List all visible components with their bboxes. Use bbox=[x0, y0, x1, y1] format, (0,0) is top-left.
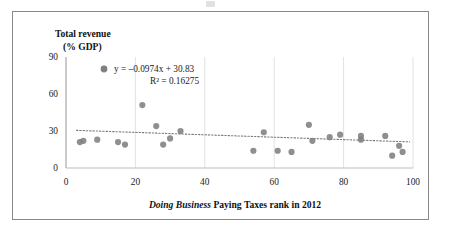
data-point bbox=[177, 128, 183, 134]
data-point bbox=[382, 133, 388, 139]
data-point bbox=[153, 123, 159, 129]
data-point bbox=[115, 139, 121, 145]
data-point bbox=[396, 143, 402, 149]
y-tick-90: 90 bbox=[49, 52, 59, 62]
data-point bbox=[167, 135, 173, 141]
data-point bbox=[275, 148, 281, 154]
x-tick-40: 40 bbox=[200, 177, 210, 187]
data-point bbox=[358, 137, 364, 143]
figure-root: 0306090 020406080100 Total revenue (% GD… bbox=[0, 0, 449, 235]
x-tick-60: 60 bbox=[270, 177, 280, 187]
y-axis-tick-labels: 0306090 bbox=[49, 52, 59, 173]
data-point bbox=[337, 132, 343, 138]
data-point bbox=[288, 149, 294, 155]
data-point bbox=[327, 134, 333, 140]
data-point bbox=[399, 149, 405, 155]
data-point bbox=[309, 138, 315, 144]
data-point bbox=[389, 153, 395, 159]
x-tick-20: 20 bbox=[131, 177, 141, 187]
y-tick-60: 60 bbox=[49, 89, 59, 99]
chart-frame: 0306090 020406080100 Total revenue (% GD… bbox=[12, 11, 429, 220]
x-tick-100: 100 bbox=[406, 177, 420, 187]
y-tick-30: 30 bbox=[49, 126, 59, 136]
x-axis-tick-labels: 020406080100 bbox=[64, 177, 421, 187]
data-point bbox=[261, 129, 267, 135]
x-tick-80: 80 bbox=[339, 177, 349, 187]
x-tick-0: 0 bbox=[64, 177, 69, 187]
data-point bbox=[80, 138, 86, 144]
data-points bbox=[77, 102, 406, 159]
data-point bbox=[250, 148, 256, 154]
y-tick-0: 0 bbox=[53, 163, 58, 173]
svg-text:(% GDP): (% GDP) bbox=[63, 41, 102, 53]
x-axis-title: Doing Business Paying Taxes rank in 2012 bbox=[148, 199, 321, 210]
y-axis-title: Total revenue (% GDP) bbox=[55, 28, 111, 53]
data-point bbox=[122, 141, 128, 147]
data-point bbox=[160, 141, 166, 147]
svg-text:R² = 0.16275: R² = 0.16275 bbox=[150, 76, 199, 86]
data-point bbox=[139, 102, 145, 108]
data-point bbox=[94, 137, 100, 143]
svg-text:Doing Business Paying Taxes ra: Doing Business Paying Taxes rank in 2012 bbox=[148, 199, 321, 210]
svg-text:y = –0.0974x + 30.83: y = –0.0974x + 30.83 bbox=[114, 64, 195, 74]
scan-artifact-mark bbox=[206, 1, 215, 7]
svg-text:Total revenue: Total revenue bbox=[55, 28, 111, 39]
scatter-plot: 0306090 020406080100 Total revenue (% GD… bbox=[13, 12, 428, 219]
regression-annotation: y = –0.0974x + 30.83 R² = 0.16275 bbox=[101, 64, 200, 86]
data-point bbox=[306, 122, 312, 128]
